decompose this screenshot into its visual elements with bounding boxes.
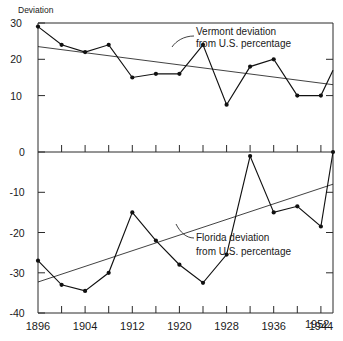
data-point xyxy=(60,43,64,47)
upper-ylabel-30: 30 xyxy=(10,17,22,29)
chart-canvas: Deviation 30 20 10 xyxy=(0,0,343,341)
vermont-annotation-line1: Vermont deviation xyxy=(196,26,276,37)
data-point xyxy=(154,239,158,243)
upper-panel: 30 20 10 xyxy=(10,17,333,152)
data-point xyxy=(248,154,252,158)
data-point xyxy=(319,224,323,228)
data-point xyxy=(225,103,229,107)
data-point xyxy=(130,210,134,214)
y-axis-title: Deviation xyxy=(18,5,54,15)
xlabel-1920: 1920 xyxy=(167,320,191,332)
data-point xyxy=(130,75,134,79)
bottom-axis-xticks xyxy=(62,306,321,313)
florida-series-line xyxy=(38,152,333,291)
data-point xyxy=(319,94,323,98)
lower-panel: 0 -10 -20 -30 -40 xyxy=(9,145,335,332)
data-point xyxy=(177,72,181,76)
data-point xyxy=(107,43,111,47)
xlabel-1936: 1936 xyxy=(261,320,285,332)
florida-annotation-line1: Florida deviation xyxy=(196,232,269,243)
deviation-chart-figure: Deviation 30 20 10 xyxy=(0,0,343,341)
data-point xyxy=(36,25,40,29)
zero-line-xticks xyxy=(62,145,321,152)
data-point xyxy=(177,263,181,267)
vermont-leader-line xyxy=(172,36,194,47)
xlabel-1904: 1904 xyxy=(73,320,97,332)
data-point xyxy=(36,259,40,263)
vermont-markers xyxy=(36,25,323,107)
data-point xyxy=(60,283,64,287)
lower-ylabel-n20: -20 xyxy=(9,227,24,239)
lower-ylabel-n40: -40 xyxy=(9,307,24,319)
lower-ylabel-n10: -10 xyxy=(9,186,24,198)
data-point xyxy=(201,281,205,285)
xlabel-1912: 1912 xyxy=(120,320,144,332)
upper-ylabel-10: 10 xyxy=(10,90,22,102)
xlabel-1928: 1928 xyxy=(214,320,238,332)
data-point xyxy=(272,210,276,214)
lower-ylabel-n30: -30 xyxy=(9,267,24,279)
data-point xyxy=(331,150,335,154)
data-point xyxy=(248,65,252,69)
lower-trend-line xyxy=(38,184,333,282)
xlabel-1952: 1952 xyxy=(305,319,329,330)
lower-ylabel-0: 0 xyxy=(19,146,25,158)
data-point xyxy=(83,289,87,293)
data-point xyxy=(272,57,276,61)
upper-ylabel-20: 20 xyxy=(10,53,22,65)
vermont-annotation-line2: from U.S. percentage xyxy=(196,38,291,49)
data-point xyxy=(83,50,87,54)
data-point xyxy=(107,271,111,275)
data-point xyxy=(295,94,299,98)
xlabel-1896: 1896 xyxy=(26,320,50,332)
data-point xyxy=(154,72,158,76)
data-point xyxy=(295,204,299,208)
florida-markers xyxy=(36,150,335,293)
florida-annotation-line2: from U.S. percentage xyxy=(196,246,291,257)
